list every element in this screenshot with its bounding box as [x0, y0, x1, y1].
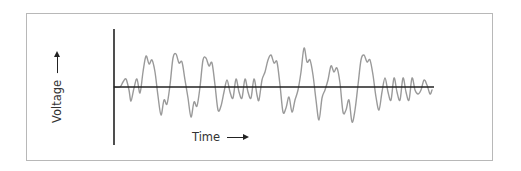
- y-axis-label: Voltage: [50, 51, 64, 123]
- right-arrow-icon: [227, 132, 249, 142]
- x-axis-label-text: Time: [192, 130, 220, 144]
- y-axis-label-text: Voltage: [50, 80, 64, 123]
- voltage-waveform: [114, 48, 432, 122]
- x-axis-label: Time: [192, 130, 249, 144]
- up-arrow-icon: [52, 51, 62, 73]
- waveform-plot: [0, 0, 521, 171]
